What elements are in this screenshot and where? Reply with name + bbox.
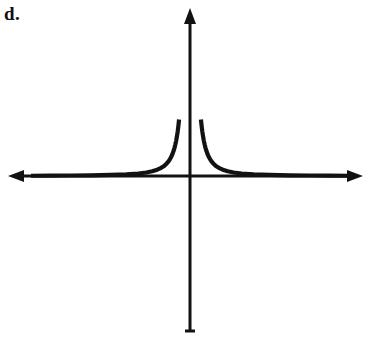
graph-canvas [0, 0, 370, 339]
curve-right-branch [201, 119, 349, 175]
y-axis [184, 8, 196, 331]
curve-left-branch [31, 119, 179, 175]
x-axis-left-arrowhead-icon [8, 170, 24, 182]
y-axis-top-arrowhead-icon [184, 8, 196, 24]
figure-container: d. [0, 0, 370, 339]
x-axis-right-arrowhead-icon [347, 170, 363, 182]
